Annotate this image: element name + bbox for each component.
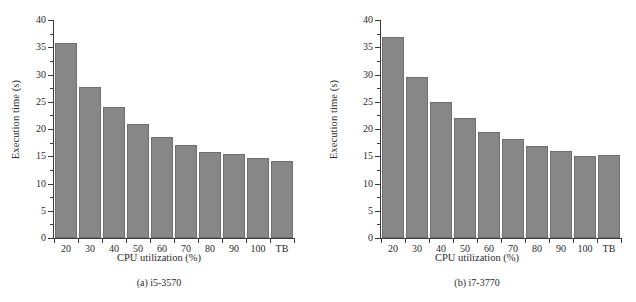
y-tick-label-a-40: 40 [36,15,46,25]
y-tick-label-a-5: 5 [41,206,46,216]
y-minor-tick-a [50,143,53,144]
y-tick-label-b-20: 20 [363,124,373,134]
bar-a-20 [55,43,77,238]
x-axis-title-b: CPU utilization (%) [318,252,636,263]
bar-series-b [381,20,621,238]
y-axis-title-a-text: Execution time (s) [11,79,22,158]
y-minor-tick-a [50,224,53,225]
panel-caption-b: (b) i7-3770 [318,277,636,288]
bar-b-100 [574,156,596,238]
bar-a-40 [103,107,125,238]
y-tick-label-b-25: 25 [363,97,373,107]
x-tick-b-0 [381,238,382,243]
x-tick-b-4 [477,238,478,243]
y-minor-tick-b [377,61,380,62]
y-tick-a-30 [48,75,53,76]
x-tick-a-10 [294,238,295,243]
y-minor-tick-b [377,224,380,225]
y-tick-label-b-30: 30 [363,70,373,80]
y-axis-title-b: Execution time (s) [322,0,346,238]
y-minor-tick-b [377,34,380,35]
y-tick-b-30 [375,75,380,76]
y-tick-b-40 [375,20,380,21]
bar-a-30 [79,87,101,239]
x-tick-a-0 [54,238,55,243]
x-tick-a-5 [174,238,175,243]
bar-a-50 [127,124,149,238]
bar-b-80 [526,146,548,238]
y-tick-b-10 [375,184,380,185]
plot-area-b: 0510152025303540 2030405060708090100TB [380,20,620,238]
y-minor-tick-a [50,88,53,89]
y-tick-label-a-30: 30 [36,70,46,80]
x-tick-b-5 [501,238,502,243]
bar-a-80 [199,152,221,238]
y-tick-b-0 [375,238,380,239]
y-minor-tick-b [377,88,380,89]
y-tick-label-a-20: 20 [36,124,46,134]
x-tick-a-1 [78,238,79,243]
x-tick-a-9 [270,238,271,243]
y-tick-b-20 [375,129,380,130]
x-tick-a-2 [102,238,103,243]
x-tick-b-7 [549,238,550,243]
y-tick-a-10 [48,184,53,185]
y-minor-tick-b [377,115,380,116]
y-minor-tick-a [50,34,53,35]
y-tick-label-b-35: 35 [363,42,373,52]
y-tick-b-35 [375,47,380,48]
y-axis-title-a: Execution time (s) [4,0,28,238]
y-tick-label-b-10: 10 [363,179,373,189]
x-tick-b-2 [429,238,430,243]
x-axis-title-a: CPU utilization (%) [0,252,318,263]
x-tick-a-3 [126,238,127,243]
chart-panel-b: Execution time (s) 0510152025303540 2030… [318,0,636,302]
y-tick-a-0 [48,238,53,239]
y-axis-title-b-text: Execution time (s) [329,79,340,158]
figure-two-panel-bar-charts: Execution time (s) 0510152025303540 2030… [0,0,636,302]
y-tick-b-25 [375,102,380,103]
x-tick-b-9 [597,238,598,243]
y-tick-label-a-15: 15 [36,151,46,161]
bar-b-70 [502,139,524,238]
bar-b-TB [598,155,620,238]
x-tick-a-4 [150,238,151,243]
x-tick-b-6 [525,238,526,243]
y-minor-tick-a [50,170,53,171]
bar-series-a [54,20,294,238]
y-tick-b-5 [375,211,380,212]
y-minor-tick-a [50,115,53,116]
bar-b-50 [454,118,476,238]
bar-a-100 [247,158,269,238]
y-tick-label-b-5: 5 [368,206,373,216]
y-tick-a-15 [48,156,53,157]
y-minor-tick-b [377,197,380,198]
y-minor-tick-a [50,197,53,198]
y-tick-b-15 [375,156,380,157]
y-minor-tick-b [377,170,380,171]
y-tick-a-5 [48,211,53,212]
y-tick-a-20 [48,129,53,130]
x-tick-a-6 [198,238,199,243]
bar-b-40 [430,102,452,238]
x-tick-b-8 [573,238,574,243]
bar-a-60 [151,137,173,238]
bar-b-90 [550,151,572,238]
y-minor-tick-a [50,61,53,62]
y-tick-a-25 [48,102,53,103]
x-tick-a-8 [246,238,247,243]
y-tick-label-b-40: 40 [363,15,373,25]
y-tick-label-a-35: 35 [36,42,46,52]
x-tick-b-3 [453,238,454,243]
y-tick-label-a-10: 10 [36,179,46,189]
bar-b-60 [478,132,500,238]
y-tick-label-a-25: 25 [36,97,46,107]
y-tick-a-35 [48,47,53,48]
x-tick-b-10 [621,238,622,243]
bar-b-30 [406,77,428,238]
y-tick-label-b-0: 0 [368,233,373,243]
y-tick-a-40 [48,20,53,21]
bar-b-20 [382,37,404,238]
y-minor-tick-b [377,143,380,144]
y-tick-label-a-0: 0 [41,233,46,243]
